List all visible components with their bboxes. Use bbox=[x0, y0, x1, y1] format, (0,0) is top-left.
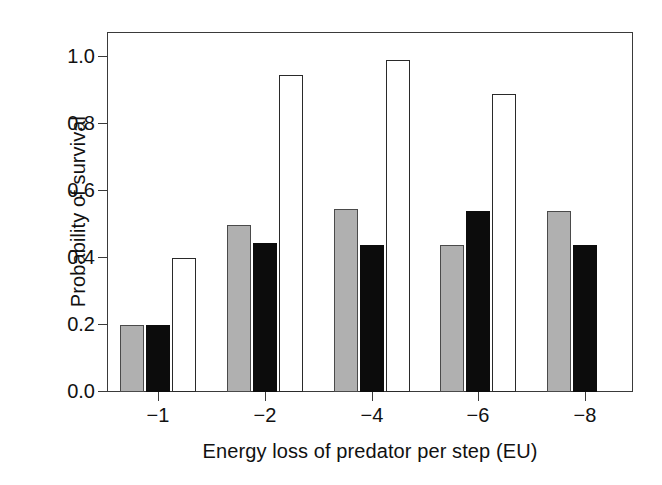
x-tick-label: −6 bbox=[443, 404, 513, 426]
y-tick-mark bbox=[98, 324, 107, 325]
bar-black-neg2 bbox=[253, 243, 277, 392]
x-tick-mark bbox=[265, 392, 266, 401]
x-tick-mark bbox=[585, 392, 586, 401]
x-tick-mark bbox=[158, 392, 159, 401]
y-tick-label: 1.0 bbox=[35, 46, 95, 66]
y-tick-label: 0.8 bbox=[35, 113, 95, 133]
bar-white-neg2 bbox=[279, 75, 303, 392]
y-tick-label: 0.6 bbox=[35, 180, 95, 200]
y-tick-mark bbox=[98, 190, 107, 191]
x-axis-title: Energy loss of predator per step (EU) bbox=[107, 440, 633, 463]
y-tick-mark bbox=[98, 56, 107, 57]
y-tick-label: 0.4 bbox=[35, 247, 95, 267]
bar-grey-neg6 bbox=[440, 245, 464, 392]
y-tick-label: 0.2 bbox=[35, 314, 95, 334]
bar-black-neg4 bbox=[360, 245, 384, 392]
bar-white-neg4 bbox=[386, 60, 410, 392]
y-tick-mark bbox=[98, 391, 107, 392]
bar-white-neg6 bbox=[492, 94, 516, 392]
x-tick-label: −2 bbox=[230, 404, 300, 426]
y-tick-label: 0.0 bbox=[35, 381, 95, 401]
x-tick-label: −8 bbox=[550, 404, 620, 426]
bar-grey-neg1 bbox=[120, 325, 144, 392]
x-tick-label: −4 bbox=[337, 404, 407, 426]
y-tick-mark bbox=[98, 123, 107, 124]
x-tick-mark bbox=[478, 392, 479, 401]
chart-figure: Probability of survival 0.00.20.40.60.81… bbox=[0, 0, 662, 485]
x-tick-mark bbox=[372, 392, 373, 401]
bar-black-neg1 bbox=[146, 325, 170, 392]
bar-black-neg6 bbox=[466, 211, 490, 392]
y-tick-mark bbox=[98, 257, 107, 258]
bar-black-neg8 bbox=[573, 245, 597, 392]
x-tick-label: −1 bbox=[123, 404, 193, 426]
bar-grey-neg8 bbox=[547, 211, 571, 392]
plot-area bbox=[107, 32, 633, 392]
bar-grey-neg4 bbox=[334, 209, 358, 392]
bar-grey-neg2 bbox=[227, 225, 251, 393]
bar-white-neg1 bbox=[172, 258, 196, 392]
